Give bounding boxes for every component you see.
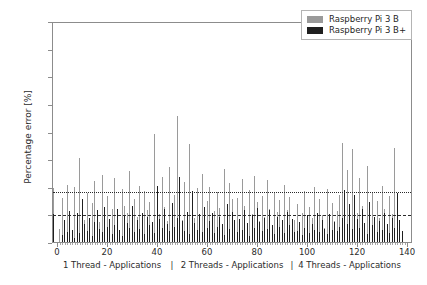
x-tick-mark [207,243,208,247]
x-tick-minor [232,243,233,245]
x-tick-minor [227,243,228,245]
x-tick-minor [342,243,343,245]
x-tick-minor [105,243,106,245]
x-tick-minor [377,243,378,245]
x-tick-minor [275,243,276,245]
x-tick-label: 80 [252,247,263,257]
x-tick-minor [202,243,203,245]
plot-area [52,22,412,243]
x-tick-minor [285,243,286,245]
x-tick-mark [407,243,408,247]
x-tick-minor [102,243,103,245]
x-tick-minor [182,243,183,245]
x-tick-minor [162,243,163,245]
x-tick-minor [255,243,256,245]
x-tick-minor [97,243,98,245]
x-tick-minor [300,243,301,245]
x-tick-minor [267,243,268,245]
x-tick-minor [130,243,131,245]
x-tick-minor [362,243,363,245]
x-tick-minor [192,243,193,245]
x-tick-minor [282,243,283,245]
y-axis-label: Percentage error [%] [23,57,33,217]
group-label: 1 Thread - Applications [63,260,161,270]
x-tick-minor [77,243,78,245]
x-tick-minor [392,243,393,245]
x-tick-minor [117,243,118,245]
x-tick-minor [142,243,143,245]
x-tick-minor [322,243,323,245]
x-tick-label: 0 [54,247,59,257]
x-tick-minor [140,243,141,245]
x-tick-minor [360,243,361,245]
legend-item-raspberry-pi-3-b-plus[interactable]: Raspberry Pi 3 B+ [307,25,406,36]
x-tick-minor [72,243,73,245]
x-tick-minor [167,243,168,245]
group-label: 2 Threads - Applications [181,260,284,270]
x-tick-minor [220,243,221,245]
x-tick-minor [402,243,403,245]
legend-label-bp: Raspberry Pi 3 B+ [329,26,406,35]
x-tick-minor [122,243,123,245]
x-tick-minor [205,243,206,245]
reference-line [53,192,411,193]
y-tick-mark [48,243,52,244]
x-tick-mark [357,243,358,247]
x-tick-minor [327,243,328,245]
x-tick-minor [390,243,391,245]
x-tick-minor [240,243,241,245]
x-tick-minor [160,243,161,245]
x-tick-minor [100,243,101,245]
x-tick-minor [367,243,368,245]
x-tick-minor [310,243,311,245]
x-tick-minor [260,243,261,245]
legend-item-raspberry-pi-3-b[interactable]: Raspberry Pi 3 B [307,14,406,25]
x-tick-minor [152,243,153,245]
x-tick-minor [92,243,93,245]
x-tick-minor [147,243,148,245]
x-tick-minor [340,243,341,245]
x-tick-minor [315,243,316,245]
x-tick-minor [345,243,346,245]
x-tick-minor [265,243,266,245]
x-tick-minor [365,243,366,245]
x-tick-minor [387,243,388,245]
x-tick-minor [317,243,318,245]
x-tick-minor [145,243,146,245]
x-tick-minor [175,243,176,245]
legend-swatch-b [307,16,323,23]
legend-label-b: Raspberry Pi 3 B [329,15,399,24]
x-tick-minor [400,243,401,245]
x-tick-minor [80,243,81,245]
x-tick-minor [87,243,88,245]
x-tick-minor [305,243,306,245]
group-separator: | [171,260,174,270]
x-tick-minor [185,243,186,245]
x-tick-minor [177,243,178,245]
x-tick-minor [155,243,156,245]
x-tick-mark [157,243,158,247]
x-tick-mark [257,243,258,247]
x-tick-minor [245,243,246,245]
x-tick-minor [295,243,296,245]
x-tick-minor [67,243,68,245]
x-tick-minor [237,243,238,245]
group-separator: | [291,260,294,270]
x-tick-mark [307,243,308,247]
x-tick-minor [90,243,91,245]
x-tick-minor [95,243,96,245]
x-tick-minor [395,243,396,245]
x-tick-minor [380,243,381,245]
x-tick-minor [217,243,218,245]
x-tick-minor [330,243,331,245]
x-tick-minor [197,243,198,245]
chart-figure: Percentage error [%] 0.02.55.07.510.012.… [0,0,427,285]
chart-legend: Raspberry Pi 3 B Raspberry Pi 3 B+ [301,10,412,40]
x-tick-minor [212,243,213,245]
x-tick-minor [347,243,348,245]
x-tick-minor [222,243,223,245]
x-tick-minor [137,243,138,245]
x-tick-minor [280,243,281,245]
x-tick-minor [325,243,326,245]
x-tick-minor [270,243,271,245]
